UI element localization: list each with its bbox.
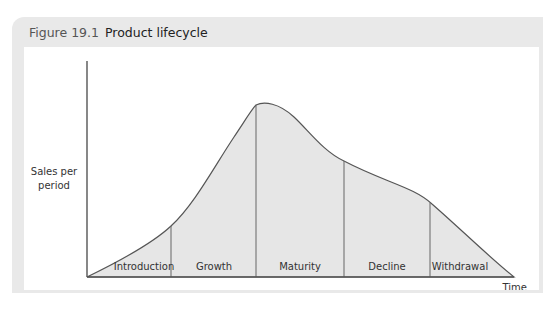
chart-panel: Introduction Growth Maturity Decline Wit…: [24, 47, 539, 290]
stage-label-withdrawal: Withdrawal: [432, 261, 488, 272]
stage-label-introduction: Introduction: [114, 261, 175, 272]
x-axis-label: Time: [502, 282, 527, 290]
stage-label-maturity: Maturity: [279, 261, 321, 272]
figure-title: Product lifecycle: [105, 25, 208, 40]
figure-frame: Figure 19.1 Product lifecycle Introducti…: [12, 17, 543, 293]
lifecycle-chart: Introduction Growth Maturity Decline Wit…: [24, 47, 539, 290]
figure-number: Figure 19.1: [29, 25, 99, 40]
y-axis-label-line1: Sales per: [31, 166, 78, 177]
figure-title-bar: Figure 19.1 Product lifecycle: [12, 17, 543, 47]
y-axis-label-line2: period: [38, 180, 70, 191]
stage-label-growth: Growth: [196, 261, 232, 272]
stage-label-decline: Decline: [368, 261, 405, 272]
lifecycle-area: [87, 103, 514, 277]
